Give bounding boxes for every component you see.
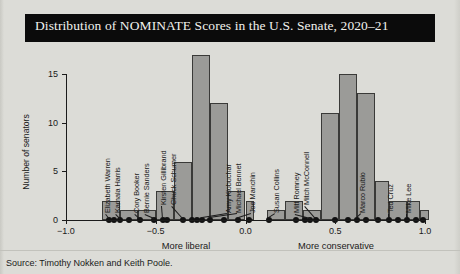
senator-label: Joe Manchin xyxy=(248,172,257,213)
senator-label: Mitch McConnell xyxy=(302,152,311,205)
figure: Distribution of NOMINATE Scores in the U… xyxy=(0,0,460,274)
y-tick-label: 15 xyxy=(36,69,58,79)
leader-line xyxy=(388,214,389,218)
y-axis-line xyxy=(66,74,67,220)
senator-label: Mike Lee xyxy=(404,184,413,213)
senator-label: Cory Booker xyxy=(132,173,141,213)
senator-label: Chuck Schumer xyxy=(169,154,178,205)
source-note: Source: Timothy Nokken and Keith Poole. xyxy=(6,258,173,268)
x-tick-label: 0.0 xyxy=(239,226,252,236)
x-tick-label: −0.5 xyxy=(147,226,165,236)
senator-label: Susan Collins xyxy=(272,169,281,213)
senator-label: Amy Klobuchar xyxy=(224,164,233,213)
divider xyxy=(0,250,460,251)
x-tick-mark xyxy=(425,220,426,224)
histogram-bar xyxy=(321,113,339,220)
y-tick-mark xyxy=(62,74,66,75)
x-tick-mark xyxy=(156,220,157,224)
x-tick-mark xyxy=(66,220,67,224)
senator-label: Bernie Sanders xyxy=(142,163,151,213)
x-tick-label: −1.0 xyxy=(57,226,75,236)
y-tick-mark xyxy=(62,123,66,124)
x-tick-label: 0.5 xyxy=(329,226,342,236)
chart-plot-area: Elizabeth WarrenKamala HarrisCory Booker… xyxy=(0,0,460,274)
y-tick-mark xyxy=(62,220,66,221)
senator-label: Ted Cruz xyxy=(386,184,395,213)
histogram-bar xyxy=(192,55,210,220)
y-tick-label: 10 xyxy=(36,118,58,128)
x-tick-label: 1.0 xyxy=(419,226,432,236)
y-tick-label: 5 xyxy=(36,166,58,176)
y-axis-title: Number of senators xyxy=(21,102,31,202)
senator-label: Kamala Harris xyxy=(113,167,122,213)
senator-label: Elizabeth Warren xyxy=(103,158,112,213)
senator-label: Marco Rubio xyxy=(358,172,367,213)
x-tick-mark xyxy=(246,220,247,224)
senator-label: Kirsten Gillibrand xyxy=(159,151,168,205)
y-tick-label: 0 xyxy=(36,215,58,225)
leader-line xyxy=(406,214,407,218)
y-tick-mark xyxy=(62,171,66,172)
senator-label: Michael Bennet xyxy=(234,163,243,213)
x-tick-mark xyxy=(335,220,336,224)
histogram-bar xyxy=(339,74,357,220)
senator-label: Mitt Romney xyxy=(292,173,301,213)
